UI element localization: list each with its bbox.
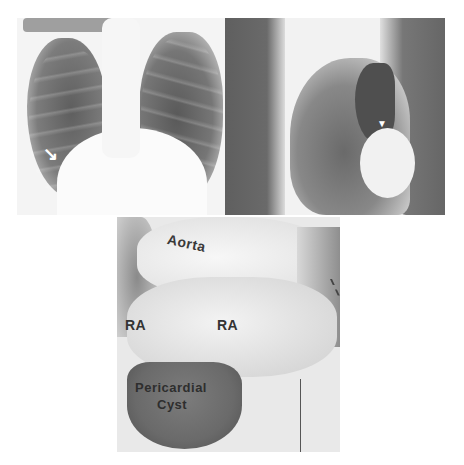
label-pericardial: Pericardial <box>135 380 207 395</box>
mediastinum <box>102 18 140 158</box>
thread-line <box>300 379 301 452</box>
arrow-marker-icon: ↘ <box>43 143 58 165</box>
pa-chest-xray: ↘ <box>17 18 225 215</box>
lateral-chest-xray: ▼ <box>225 18 445 215</box>
cyst-shadow <box>360 128 415 198</box>
clavicle-shadow <box>23 18 113 32</box>
arrowhead-marker-icon: ▼ <box>377 118 387 129</box>
label-cyst: Cyst <box>157 397 187 412</box>
label-ra-left: RA <box>125 317 146 333</box>
label-ra-right: RA <box>217 317 238 333</box>
specimen-photo: Aorta RA RA Pericardial Cyst <box>117 217 340 452</box>
spine-shadow <box>225 18 285 215</box>
